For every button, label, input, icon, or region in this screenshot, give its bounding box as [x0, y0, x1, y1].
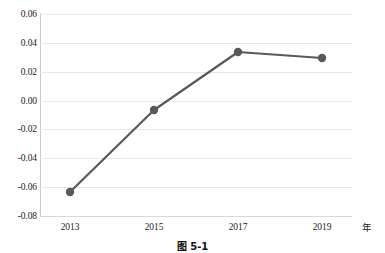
series-line: [70, 52, 322, 192]
x-axis-unit-label: 年: [362, 222, 372, 233]
data-point-marker: [234, 48, 242, 56]
x-tick-label: 2019: [297, 222, 347, 233]
figure-caption: 图 5-1: [0, 241, 385, 253]
data-point-marker: [318, 54, 326, 62]
x-tick-label: 2013: [45, 222, 95, 233]
x-tick-label: 2017: [213, 222, 263, 233]
x-tick-label: 2015: [129, 222, 179, 233]
data-point-marker: [150, 106, 158, 114]
data-point-marker: [66, 188, 74, 196]
